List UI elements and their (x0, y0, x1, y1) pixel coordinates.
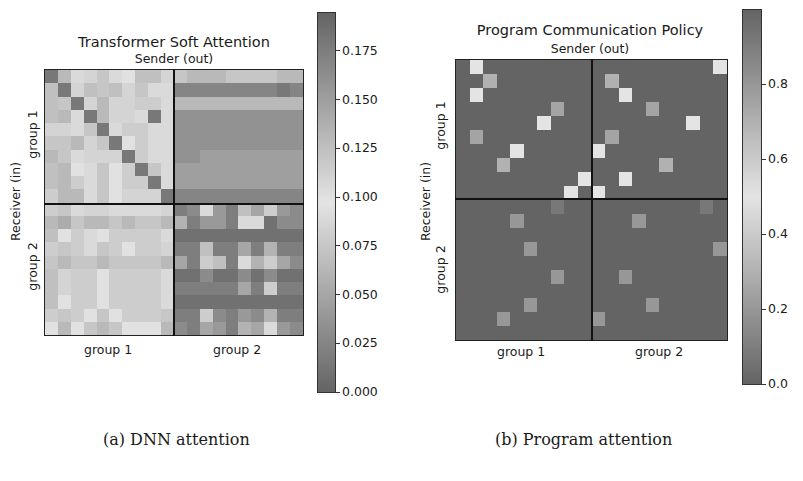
heatmap-cell (174, 216, 187, 229)
heatmap-cell (84, 229, 97, 242)
heatmap-cell (251, 256, 264, 269)
heatmap-cell (470, 116, 484, 130)
heatmap-cell (71, 282, 84, 295)
heatmap-cell (713, 242, 727, 256)
colorbar-b (742, 9, 762, 385)
heatmap-cell (646, 200, 660, 214)
heatmap-cell (71, 242, 84, 255)
heatmap-cell (45, 309, 58, 322)
heatmap-cell (605, 214, 619, 228)
heatmap-cell (290, 123, 303, 136)
heatmap-cell (537, 284, 551, 298)
heatmap-cell (97, 269, 110, 282)
heatmap-cell (619, 284, 633, 298)
heatmap-cell (578, 74, 592, 88)
heatmap-cell (97, 136, 110, 149)
heatmap-cell (109, 123, 122, 136)
heatmap-cell (605, 158, 619, 172)
heatmap-cell (551, 214, 565, 228)
heatmap-cell (524, 102, 538, 116)
heatmap-cell (524, 256, 538, 270)
heatmap-cell (456, 312, 470, 326)
heatmap-cell (497, 102, 511, 116)
heatmap-cell (109, 242, 122, 255)
heatmap-cell (524, 298, 538, 312)
heatmap-cell (97, 123, 110, 136)
heatmap-cell (700, 200, 714, 214)
heatmap-cell (497, 256, 511, 270)
chart-a-title: Transformer Soft Attention (44, 34, 304, 50)
heatmap-cell (290, 282, 303, 295)
heatmap-cell (58, 256, 71, 269)
heatmap-cell (226, 83, 239, 96)
colorbar-tick-mark (336, 294, 340, 295)
heatmap-cell (524, 312, 538, 326)
heatmap-cell (632, 74, 646, 88)
heatmap-cell (592, 228, 606, 242)
heatmap-cell (619, 130, 633, 144)
heatmap-cell (174, 150, 187, 163)
heatmap-cell (456, 172, 470, 186)
heatmap-cell (497, 158, 511, 172)
heatmap-cell (619, 102, 633, 116)
heatmap-cell (537, 270, 551, 284)
heatmap-cell (277, 295, 290, 308)
heatmap-cell (686, 214, 700, 228)
colorbar-tick-label: 0.6 (768, 151, 788, 166)
heatmap-cell (483, 144, 497, 158)
heatmap-cell (578, 88, 592, 102)
heatmap-cell (524, 242, 538, 256)
colorbar-a (317, 12, 336, 393)
heatmap-cell (592, 60, 606, 74)
heatmap-cell (238, 136, 251, 149)
heatmap-cell (592, 158, 606, 172)
heatmap-cell (45, 150, 58, 163)
heatmap-cell (45, 282, 58, 295)
heatmap-cell (686, 158, 700, 172)
heatmap-cell (174, 70, 187, 83)
heatmap-cell (148, 309, 161, 322)
heatmap-cell (187, 97, 200, 110)
heatmap-cell (200, 269, 213, 282)
chart-b-ylabel: Receiver (in) (418, 147, 433, 257)
heatmap-cell (551, 312, 565, 326)
heatmap-cell (251, 136, 264, 149)
heatmap-cell (71, 295, 84, 308)
colorbar-tick-label: 0.0 (768, 376, 788, 391)
heatmap-cell (524, 88, 538, 102)
heatmap-cell (456, 158, 470, 172)
heatmap-cell (713, 88, 727, 102)
heatmap-cell (456, 256, 470, 270)
heatmap-cell (673, 102, 687, 116)
heatmap-cell (483, 256, 497, 270)
colorbar-tick-label: 0.125 (342, 140, 378, 155)
colorbar-tick-mark (336, 343, 340, 344)
heatmap-cell (470, 102, 484, 116)
heatmap-cell (592, 298, 606, 312)
heatmap-cell (646, 284, 660, 298)
heatmap-cell (673, 158, 687, 172)
heatmap-cell (659, 102, 673, 116)
heatmap-cell (187, 229, 200, 242)
heatmap-cell (187, 163, 200, 176)
heatmap-cell (264, 269, 277, 282)
heatmap-cell (510, 74, 524, 88)
heatmap-cell (238, 70, 251, 83)
heatmap-cell (148, 322, 161, 335)
heatmap-cell (632, 312, 646, 326)
heatmap-cell (632, 172, 646, 186)
heatmap-cell (605, 326, 619, 340)
heatmap-cell (592, 74, 606, 88)
heatmap-cell (564, 144, 578, 158)
heatmap-cell (290, 256, 303, 269)
heatmap-cell (226, 309, 239, 322)
heatmap-cell (592, 172, 606, 186)
heatmap-cell (148, 229, 161, 242)
heatmap-cell (174, 83, 187, 96)
chart-b-title: Program Communication Policy (445, 22, 735, 38)
heatmap-cell (84, 83, 97, 96)
heatmap-cell (200, 322, 213, 335)
heatmap-cell (135, 282, 148, 295)
heatmap-cell (148, 216, 161, 229)
heatmap-cell (619, 312, 633, 326)
